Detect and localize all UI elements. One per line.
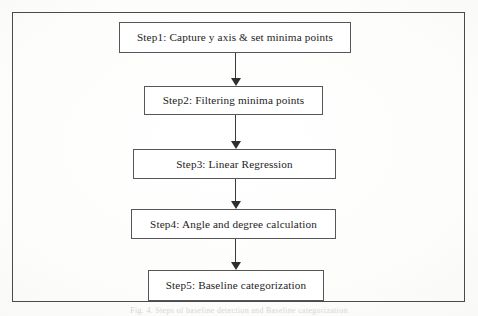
- arrow-head: [231, 78, 241, 86]
- arrow-shaft: [235, 179, 236, 201]
- flow-node-step3: Step3: Linear Regression: [133, 149, 336, 179]
- arrow-step3-to-step4-icon: [230, 179, 243, 209]
- arrow-step1-to-step2-icon: [230, 53, 243, 86]
- arrow-step4-to-step5-icon: [230, 239, 243, 270]
- flow-node-step1-label: Step1: Capture y axis & set minima point…: [137, 31, 333, 43]
- arrow-step2-to-step3-icon: [230, 115, 243, 149]
- arrow-shaft: [235, 115, 236, 141]
- figure-caption: Fig. 4. Steps of baseline detection and …: [0, 306, 478, 315]
- flow-node-step5-label: Step5: Baseline categorization: [166, 279, 307, 291]
- arrow-shaft: [235, 239, 236, 262]
- arrow-head: [231, 262, 241, 270]
- flow-node-step4-label: Step4: Angle and degree calculation: [150, 217, 317, 229]
- flow-node-step3-label: Step3: Linear Regression: [176, 157, 293, 169]
- arrow-head: [231, 201, 241, 209]
- arrow-shaft: [235, 53, 236, 78]
- flow-node-step1: Step1: Capture y axis & set minima point…: [119, 22, 351, 53]
- flow-node-step2-label: Step2: Filtering minima points: [163, 94, 305, 106]
- flow-node-step5: Step5: Baseline categorization: [148, 270, 324, 301]
- flow-node-step2: Step2: Filtering minima points: [144, 86, 323, 115]
- arrow-head: [231, 141, 241, 149]
- flowchart-figure: Step1: Capture y axis & set minima point…: [0, 0, 478, 316]
- flow-node-step4: Step4: Angle and degree calculation: [131, 209, 336, 239]
